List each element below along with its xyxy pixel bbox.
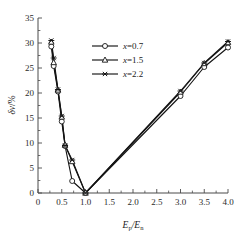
x-tick-label: 0 <box>36 197 41 207</box>
x-axis-title: Ep/En <box>122 220 145 231</box>
x-tick-label: 3.0 <box>175 197 187 207</box>
legend-label: x=1.5 <box>122 55 144 65</box>
legend: x=0.7x=1.5x=2.2 <box>92 41 144 79</box>
svg-text:Ep/En: Ep/En <box>122 220 145 231</box>
cut-off-header-text <box>0 0 236 3</box>
series-marker-triangle-open <box>69 159 75 164</box>
y-tick-group <box>38 18 42 193</box>
y-tick-label: 30 <box>25 38 35 48</box>
y-tick-label: 10 <box>25 138 35 148</box>
chart-figure: 05101520253035 00.51.01.52.02.53.03.54.0… <box>0 0 236 236</box>
x-tick-label: 2.0 <box>127 197 139 207</box>
y-tick-label: 5 <box>30 163 35 173</box>
legend-label: x=0.7 <box>122 41 144 51</box>
x-tick-label: 4.0 <box>222 197 234 207</box>
y-tick-label: 15 <box>25 113 35 123</box>
y-tick-label: 35 <box>25 13 35 23</box>
x-axis-title-slash-E: /E <box>131 220 141 230</box>
y-ticklabel-group: 05101520253035 <box>25 13 35 198</box>
series-marker-circle-open <box>49 44 54 49</box>
series-marker-triangle-open <box>49 39 55 44</box>
x-axis-title-sub-n: n <box>140 224 144 231</box>
y-axis-title: δv/% <box>7 95 17 114</box>
series-marker-circle-open <box>70 179 75 184</box>
series-marker-circle-open <box>226 45 231 50</box>
legend-marker-circle-open <box>103 44 108 49</box>
x-tick-label: 3.5 <box>199 197 211 207</box>
x-tick-label: 1.5 <box>104 197 116 207</box>
x-tick-group <box>38 189 228 193</box>
svg-text:δv/%: δv/% <box>7 95 17 114</box>
legend-marker-star <box>102 72 108 76</box>
x-ticklabel-group: 00.51.01.52.02.53.03.54.0 <box>36 197 234 207</box>
y-tick-label: 0 <box>30 188 35 198</box>
legend-label: x=2.2 <box>122 69 143 79</box>
x-tick-label: 1.0 <box>80 197 92 207</box>
line-chart-svg: 05101520253035 00.51.01.52.02.53.03.54.0… <box>0 0 236 236</box>
x-tick-label: 2.5 <box>151 197 163 207</box>
x-tick-label: 0.5 <box>56 197 68 207</box>
series-marker-circle-open <box>59 119 64 124</box>
y-tick-label: 20 <box>25 88 35 98</box>
y-axis-title-pct: /% <box>7 95 17 106</box>
y-tick-label: 25 <box>25 63 35 73</box>
